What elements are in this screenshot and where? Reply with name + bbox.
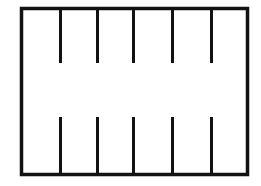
diagram-canvas — [0, 0, 261, 186]
comb-rectangle-figure — [0, 0, 261, 186]
diagram-background — [0, 0, 261, 186]
